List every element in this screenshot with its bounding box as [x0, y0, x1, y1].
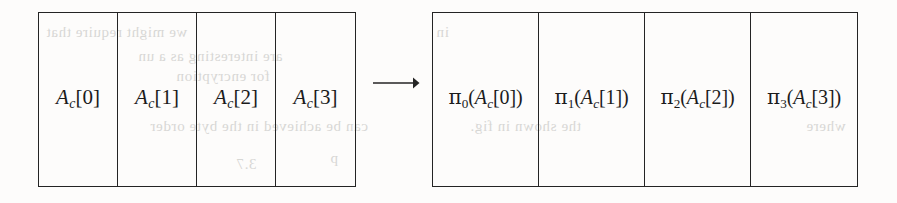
output-cell-label-3: π3(Ac[3]) — [767, 87, 841, 110]
input-array-cell-1: Ac[1] — [118, 13, 197, 186]
input-cell-label-0: Ac[0] — [56, 87, 100, 111]
index-value: 2 — [240, 85, 251, 109]
input-array-cell-3: Ac[3] — [276, 13, 355, 186]
output-array-table: π0(Ac[0]) π1(Ac[1]) π2(Ac[2]) π3(Ac[3]) — [432, 12, 858, 187]
index-value: 2 — [712, 86, 722, 108]
pi-symbol: π — [448, 85, 461, 109]
input-array-cell-2: Ac[2] — [197, 13, 276, 186]
pi-symbol: π — [767, 85, 780, 109]
pi-symbol: π — [660, 85, 673, 109]
input-array-cell-0: Ac[0] — [39, 13, 118, 186]
variable-A: A — [687, 86, 699, 108]
variable-A: A — [581, 86, 593, 108]
variable-A: A — [214, 85, 227, 109]
index-value: 3 — [818, 86, 828, 108]
output-array-cell-2: π2(Ac[2]) — [645, 13, 751, 186]
pi-subscript: 3 — [780, 96, 787, 111]
index-value: 3 — [320, 85, 331, 109]
output-array-cell-3: π3(Ac[3]) — [751, 13, 857, 186]
index-value: 0 — [82, 85, 93, 109]
variable-A: A — [475, 86, 487, 108]
input-array-table: Ac[0] Ac[1] Ac[2] Ac[3] — [38, 12, 356, 187]
variable-A: A — [294, 85, 307, 109]
output-array-cell-0: π0(Ac[0]) — [433, 13, 539, 186]
output-cell-label-1: π1(Ac[1]) — [554, 87, 628, 110]
output-cell-label-2: π2(Ac[2]) — [660, 87, 734, 110]
index-value: 1 — [161, 85, 172, 109]
index-value: 1 — [606, 86, 616, 108]
output-array-cell-1: π1(Ac[1]) — [539, 13, 645, 186]
pi-symbol: π — [554, 85, 567, 109]
input-cell-label-1: Ac[1] — [135, 87, 179, 111]
input-cell-label-2: Ac[2] — [214, 87, 258, 111]
scanned-page-canvas: we might require that are interesting as… — [0, 0, 897, 203]
right-arrow-icon — [372, 72, 420, 94]
variable-A: A — [793, 86, 805, 108]
input-cell-label-3: Ac[3] — [294, 87, 338, 111]
variable-A: A — [56, 85, 69, 109]
output-cell-label-0: π0(Ac[0]) — [448, 87, 522, 110]
index-value: 0 — [500, 86, 510, 108]
variable-A: A — [135, 85, 148, 109]
